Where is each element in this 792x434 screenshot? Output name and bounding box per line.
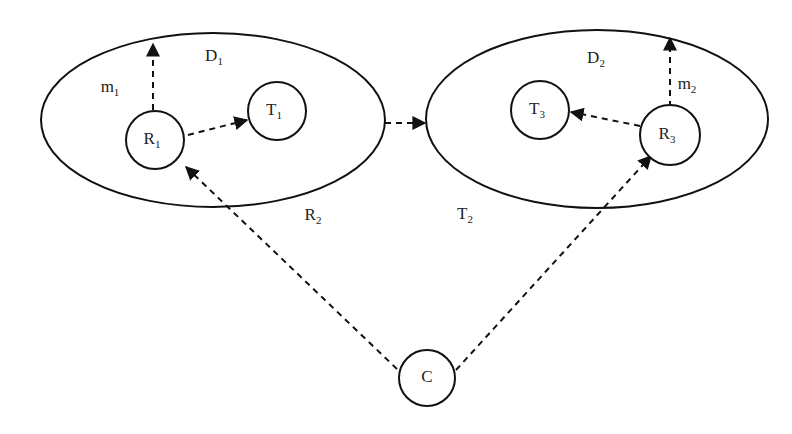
domain-label-d1: D1: [205, 46, 223, 67]
labels-layer: m1m2R2T2: [101, 74, 697, 226]
node-r1: R1: [126, 111, 184, 169]
edges-layer: [153, 38, 670, 370]
node-label-c: C: [421, 367, 432, 386]
arrow-r3-t3: [571, 112, 640, 126]
label-r2: R2: [305, 205, 322, 226]
label-m2: m2: [678, 74, 697, 95]
node-r3: R3: [640, 105, 700, 165]
node-t1: T1: [248, 82, 306, 140]
label-t2: T2: [457, 204, 473, 225]
domain-label-d2: D2: [587, 48, 605, 69]
arrow-c-r3: [456, 156, 651, 370]
domain-d1: D1: [41, 33, 385, 207]
domain-d2: D2: [426, 30, 768, 208]
network-diagram: D1D2 R1T1T3R3C m1m2R2T2: [0, 0, 792, 434]
label-m1: m1: [101, 77, 120, 98]
node-c: C: [399, 350, 455, 406]
arrow-r1-t1: [188, 120, 247, 135]
node-t3: T3: [511, 81, 569, 139]
